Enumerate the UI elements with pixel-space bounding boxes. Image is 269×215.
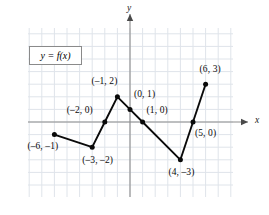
x-axis-label: x bbox=[255, 115, 259, 125]
axes bbox=[28, 14, 248, 197]
legend-box: y = f(x) bbox=[29, 46, 82, 65]
graph-figure: y = f(x) y x (–6, –1)(–3, –2)(–2, 0)(–1,… bbox=[0, 0, 269, 215]
point-label: (–1, 2) bbox=[91, 76, 117, 86]
point-label: (–6, –1) bbox=[27, 141, 58, 151]
coordinate-plane bbox=[0, 0, 269, 215]
point-label: (–3, –2) bbox=[82, 155, 113, 165]
point-label: (4, –3) bbox=[168, 167, 194, 177]
point-label: (–2, 0) bbox=[67, 105, 93, 115]
point-label: (5, 0) bbox=[195, 128, 216, 138]
point-label: (6, 3) bbox=[200, 64, 221, 74]
legend-label: y = f(x) bbox=[40, 50, 70, 61]
point-label: (1, 0) bbox=[147, 105, 168, 115]
y-axis-label: y bbox=[127, 3, 131, 13]
point-label: (0, 1) bbox=[134, 89, 155, 99]
